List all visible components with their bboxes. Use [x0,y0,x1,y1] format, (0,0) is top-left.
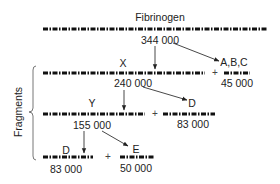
x-label: X [119,57,126,69]
arrow-x-to-d [143,87,187,100]
y-mass: 155 000 [73,119,111,131]
fragments-label: Fragments [12,87,24,137]
arrow-y-to-e [102,131,128,146]
plus-sign: + [212,67,218,78]
fibrinogen-label: Fibrinogen [135,11,185,23]
e-mass: 50 000 [120,162,152,174]
plus-sign: + [152,108,158,119]
abc-label: A,B,C [220,56,248,68]
x-mass: 240 000 [114,77,152,89]
y-label: Y [88,97,95,109]
d2-mass: 83 000 [50,163,82,175]
d2-label: D [62,144,70,156]
fibrinogen-mass: 344 000 [141,34,179,46]
d1-mass: 83 000 [177,118,209,130]
arrow-fibrinogen-to-abc [173,43,219,61]
abc-mass: 45 000 [221,77,253,89]
d1-label: D [188,97,196,109]
fibrinogen-degradation-diagram: Fibrinogen 344 000 X 240 000 + A,B,C 45 … [0,0,280,184]
e-label: E [132,143,139,155]
plus-sign: + [105,151,111,162]
fragments-brace [29,66,36,160]
